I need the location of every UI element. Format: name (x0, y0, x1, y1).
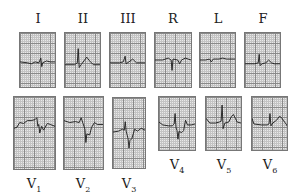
lead-label-r: R (153, 12, 193, 26)
lead-label-v6: V6 (250, 158, 290, 178)
ecg-strip-v1 (13, 96, 56, 170)
lead-label-v2: V2 (63, 177, 103, 196)
ecg-strip-iii (109, 32, 146, 88)
lead-label-v5: V5 (204, 158, 244, 178)
lead-label-f: F (243, 12, 283, 26)
lead-label-ii: II (63, 12, 103, 26)
ecg-strip-f (244, 32, 281, 88)
lead-label-v1: V1 (14, 177, 54, 196)
lead-label-iii: III (108, 12, 148, 26)
ecg-strip-r (154, 32, 192, 88)
ecg-strip-ii (64, 32, 101, 88)
lead-label-l: L (198, 12, 238, 26)
ecg-strip-l (199, 32, 236, 88)
lead-label-i: I (18, 12, 58, 26)
lead-label-v4: V4 (157, 158, 197, 178)
ecg-strip-v5 (205, 96, 242, 151)
lead-label-v3: V3 (109, 177, 149, 196)
ecg-strip-v3 (112, 97, 146, 169)
ecg-strip-i (19, 32, 56, 88)
ecg-strip-v4 (158, 96, 196, 151)
ecg-strip-v2 (63, 96, 104, 170)
ecg-strip-v6 (251, 96, 288, 151)
